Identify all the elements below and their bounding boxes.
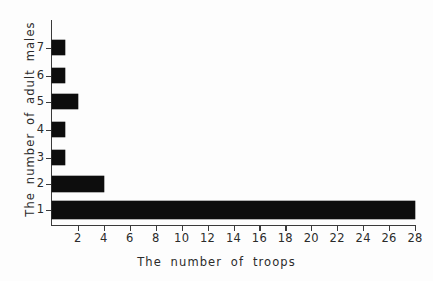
bar-3 [52,150,65,165]
bar-2 [52,176,104,192]
x-tick-label-28: 28 [400,231,430,245]
y-tick-5 [46,102,51,103]
y-axis-title: The number of adult males [23,9,37,229]
y-tick-3 [46,158,51,159]
y-tick-7 [46,48,51,49]
bar-7 [52,40,65,55]
bar-5 [52,94,78,109]
x-axis-title: The number of troops [0,255,433,269]
bar-1 [52,201,415,219]
y-tick-4 [46,130,51,131]
plot-area [52,20,415,225]
y-tick-1 [46,210,51,211]
y-tick-2 [46,184,51,185]
y-tick-6 [46,76,51,77]
bar-chart-figure: 246810121416182022242628 7654321 The num… [0,0,433,281]
bar-4 [52,122,65,137]
bar-6 [52,68,65,83]
